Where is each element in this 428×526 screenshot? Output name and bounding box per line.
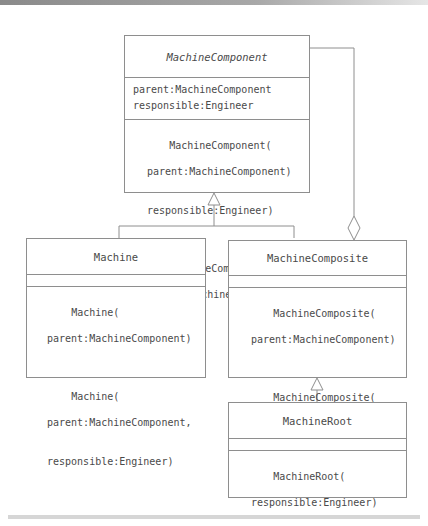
operation: Machine( parent:MachineComponent): [35, 293, 205, 371]
attributes-compartment: [229, 439, 406, 451]
operation: MachineComponent( parent:MachineComponen…: [133, 126, 309, 243]
bottom-rule: [8, 515, 420, 519]
class-name: MachineComposite: [229, 241, 406, 276]
attributes-compartment: [27, 275, 205, 287]
attributes-compartment: parent:MachineComponent responsible:Engi…: [125, 78, 309, 120]
class-name: Machine: [27, 239, 205, 275]
aggregation-diamond-icon: [348, 216, 360, 240]
class-name: MachineRoot: [229, 403, 406, 439]
class-machine-root: MachineRoot MachineRoot( responsible:Eng…: [228, 402, 407, 498]
aggregation-line: [309, 48, 360, 240]
attributes-compartment: [229, 276, 406, 288]
class-machine: Machine Machine( parent:MachineComponent…: [26, 238, 206, 378]
operations-compartment: Machine( parent:MachineComponent) Machin…: [27, 287, 205, 494]
class-name: MachineComponent: [125, 36, 309, 78]
class-machine-component: MachineComponent parent:MachineComponent…: [124, 35, 310, 193]
attribute: responsible:Engineer: [133, 98, 309, 114]
operation: Machine( parent:MachineComponent, respon…: [35, 377, 205, 494]
class-machine-composite: MachineComposite MachineComposite( paren…: [228, 240, 407, 378]
operation: MachineComposite( parent:MachineComponen…: [237, 294, 406, 372]
attribute: parent:MachineComponent: [133, 82, 309, 98]
